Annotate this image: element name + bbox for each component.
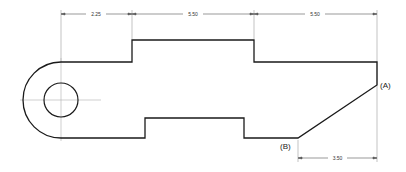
arrowhead-icon [132,13,136,15]
technical-drawing: 2.25 5.50 5.50 3.50 (A) (B) [0,0,406,172]
arrowhead-icon [254,13,258,15]
part-outline [23,40,377,138]
extension-lines [61,10,377,162]
point-a-label: (A) [380,81,391,90]
arrowhead-icon [373,157,377,159]
arrowhead-icon [61,13,65,15]
arrowhead-icon [373,13,377,15]
dimension-label-bottom: 3.50 [333,155,343,161]
arrowhead-icon [298,157,302,159]
centerlines [20,58,101,141]
dimension-label-1: 2.25 [91,11,101,17]
dimension-label-2: 5.50 [188,11,198,17]
dimension-top [61,13,377,15]
point-b-label: (B) [280,142,291,151]
arrowhead-icon [128,13,132,15]
dimension-label-3: 5.50 [310,11,320,17]
arrowhead-icon [250,13,254,15]
